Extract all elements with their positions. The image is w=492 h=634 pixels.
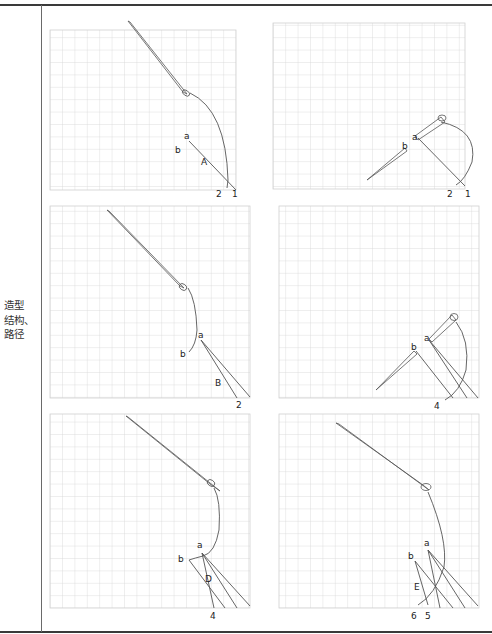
grid-paper xyxy=(50,206,250,398)
point-a-label: a xyxy=(198,330,204,340)
step-label: 4 xyxy=(434,401,440,411)
point-a-label: a xyxy=(424,333,430,343)
region-label: A xyxy=(201,157,208,167)
step-label: 2 xyxy=(447,189,453,199)
region-label: E xyxy=(414,582,420,592)
grid-paper xyxy=(279,206,479,398)
panel-2: a b 2 1 xyxy=(273,23,473,199)
step-label: 1 xyxy=(465,189,471,199)
step-label: 4 xyxy=(210,611,216,621)
panel-1: a b A 2 1 xyxy=(50,21,238,199)
panel-6: a b E 6 5 xyxy=(279,414,479,621)
point-a-label: a xyxy=(412,132,418,142)
point-a-label: a xyxy=(184,131,190,141)
step-label: 5 xyxy=(425,611,431,621)
region-label: B xyxy=(215,378,221,388)
point-b-label: b xyxy=(180,349,186,359)
panel-3: a b B 2 xyxy=(50,206,250,410)
point-b-label: b xyxy=(411,342,417,352)
panel-5: a b D 4 xyxy=(50,414,250,621)
grid-paper xyxy=(50,30,236,190)
step-label: 2 xyxy=(216,189,222,199)
diagram-panels: a b A 2 1 a b 2 1 a b B 2 xyxy=(0,0,492,634)
grid-paper xyxy=(50,414,250,608)
step-label: 1 xyxy=(232,189,238,199)
step-label: 6 xyxy=(411,611,417,621)
point-a-label: a xyxy=(424,538,430,548)
panel-4: a b 4 xyxy=(279,206,479,411)
point-b-label: b xyxy=(178,554,184,564)
point-b-label: b xyxy=(408,551,414,561)
point-b-label: b xyxy=(402,141,408,151)
region-label: D xyxy=(205,574,212,584)
grid-paper xyxy=(273,23,465,189)
step-label: 2 xyxy=(236,400,242,410)
point-a-label: a xyxy=(197,540,203,550)
point-b-label: b xyxy=(175,145,181,155)
grid-paper xyxy=(279,414,479,608)
